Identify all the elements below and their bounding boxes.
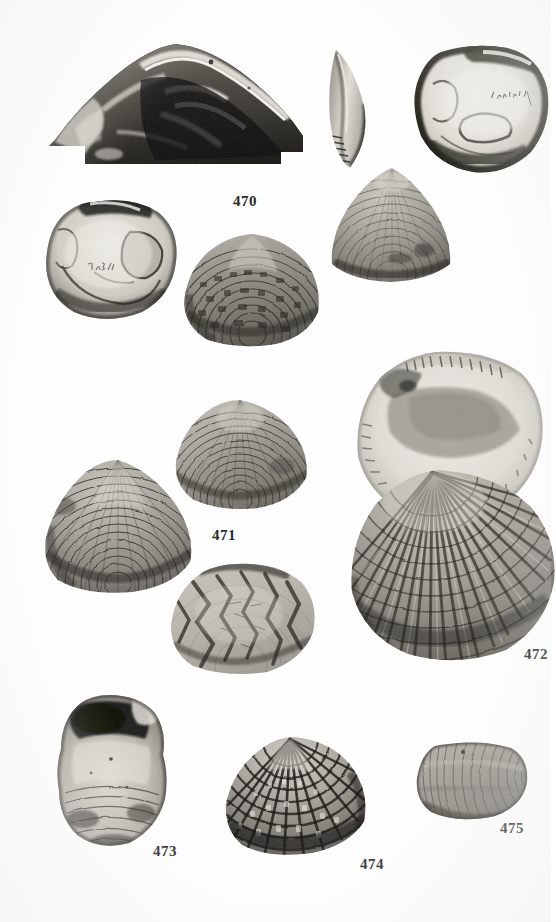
- figure-label-472: 472: [524, 646, 548, 663]
- fig-473-two-valve-dark-view: [53, 693, 171, 853]
- fig-472-exterior-ribbed-valve: [346, 466, 556, 666]
- figure-label-470: 470: [233, 193, 257, 210]
- fig-474-cancellate-valve: [220, 733, 372, 859]
- figure-label-475: 475: [500, 820, 524, 837]
- fig-470-interior-right-valve: [411, 40, 553, 180]
- fig-470-exterior-patterned-valve: [180, 230, 324, 350]
- figure-label-471: 471: [212, 527, 236, 544]
- fig-470-interior-left-valve: [42, 196, 182, 326]
- fig-470-dorsal-hinge-view: [45, 36, 310, 178]
- figure-label-473: 473: [153, 843, 177, 860]
- fig-470-lateral-narrow-view: [320, 44, 376, 178]
- fig-471-exterior-valve-zigzag: [163, 560, 323, 678]
- fig-470-exterior-valve-lower: [326, 166, 456, 288]
- figure-label-474: 474: [360, 856, 384, 873]
- fig-475-elongate-valve: [411, 738, 535, 824]
